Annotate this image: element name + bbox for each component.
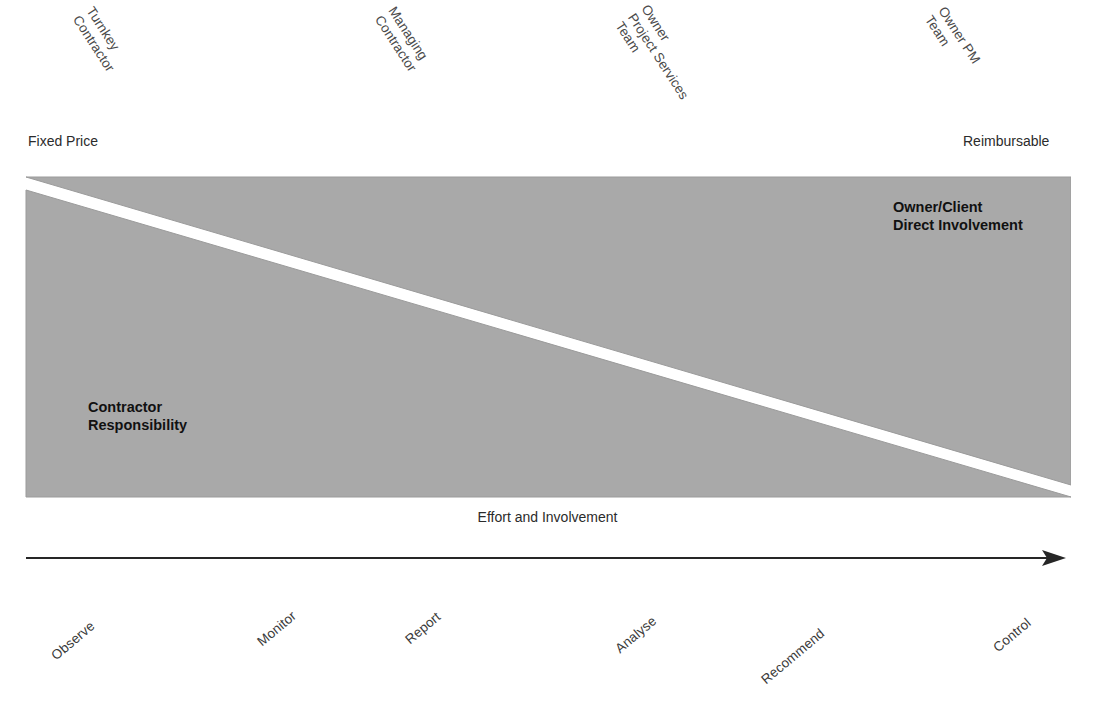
label-reimbursable: Reimbursable	[963, 133, 1049, 149]
role-label-turnkey-contractor: Turnkey Contractor	[70, 4, 131, 75]
stage-label-monitor: Monitor	[254, 608, 299, 649]
role-label-owner-project-services-team: Owner Project Services Team	[612, 2, 705, 110]
role-label-managing-contractor: Managing Contractor	[372, 4, 433, 75]
diagram-canvas: Turnkey Contractor Managing Contractor O…	[0, 0, 1095, 703]
axis-caption-effort-and-involvement: Effort and Involvement	[0, 509, 1095, 525]
stage-label-recommend: Recommend	[758, 626, 827, 687]
wedge-label-contractor-responsibility: Contractor Responsibility	[88, 398, 187, 434]
label-fixed-price: Fixed Price	[28, 133, 98, 149]
stage-label-analyse: Analyse	[612, 613, 659, 656]
stage-label-observe: Observe	[48, 618, 97, 663]
wedge-label-owner-client-direct-involvement: Owner/Client Direct Involvement	[893, 198, 1023, 234]
role-label-owner-pm-team: Owner PM Team	[922, 4, 983, 75]
stage-label-report: Report	[402, 609, 443, 647]
axis-arrow-icon	[26, 545, 1066, 571]
stage-label-control: Control	[990, 615, 1034, 655]
